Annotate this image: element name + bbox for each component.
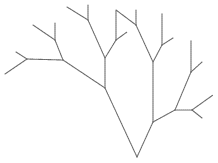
- fractal-tree-diagram: [0, 0, 218, 163]
- branch-far-left-horiz: [27, 59, 63, 60]
- branch-right-upper-stem: [153, 45, 162, 62]
- branch-mid-right-stem: [105, 40, 116, 58]
- tree-branches: [5, 5, 213, 157]
- branch-right-fork-up: [192, 95, 213, 110]
- branch-far-left-down: [5, 59, 27, 74]
- branch-top-left-diag: [67, 7, 88, 20]
- branch-trunk-left: [105, 88, 137, 157]
- branch-trunk-right: [137, 122, 153, 157]
- branch-right-low-diag: [153, 110, 175, 122]
- branch-far-left-up: [16, 52, 27, 59]
- branch-upper-left-diag: [33, 25, 55, 40]
- branch-upper-left-stem: [55, 40, 63, 60]
- branch-right-upper-twig: [162, 38, 173, 45]
- branch-right-low-stem: [175, 72, 191, 110]
- branch-mid-left-diag: [88, 20, 105, 58]
- branch-left-diag: [63, 60, 105, 88]
- branch-far-right-twig: [191, 62, 202, 72]
- branch-top-mid-diag: [116, 10, 136, 25]
- branch-center-diag: [136, 25, 153, 62]
- branch-mid-twig: [116, 32, 127, 40]
- branch-right-fork-down: [192, 110, 202, 118]
